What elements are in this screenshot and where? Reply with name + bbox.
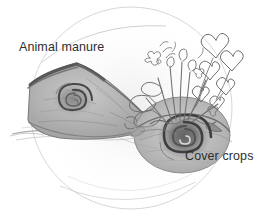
label-animal-manure: Animal manure: [19, 41, 104, 54]
illustration-canvas: Animal manure Cover crops: [0, 0, 262, 219]
pencil-sketch-illustration: [0, 0, 262, 219]
soil-spiral-left: [52, 82, 94, 116]
label-cover-crops: Cover crops: [185, 150, 253, 163]
